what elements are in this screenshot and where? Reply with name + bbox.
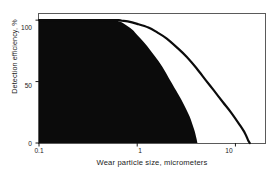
y-tick-label-100: 100: [10, 24, 32, 31]
chart-figure: Detection efficiency, % 100 50 0 0.1 1 1…: [0, 0, 280, 173]
y-tick-label-0: 0: [10, 140, 32, 147]
x-tick-label-10: 10: [217, 147, 241, 154]
y-tick-label-50: 50: [10, 82, 32, 89]
x-tick-label-0.1: 0.1: [27, 147, 51, 154]
y-axis-title: Detection efficiency, %: [10, 0, 19, 117]
x-tick-label-1: 1: [128, 147, 152, 154]
x-axis-title: Wear particle size, micrometers: [38, 158, 266, 167]
